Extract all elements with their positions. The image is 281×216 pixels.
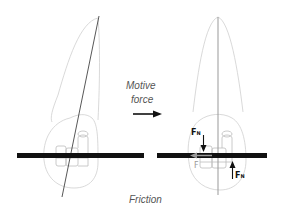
normal-force-top-subscript: N	[196, 130, 200, 136]
normal-force-bottom-subscript: N	[240, 173, 244, 179]
right-bracket	[200, 131, 232, 168]
normal-force-down-arrow	[201, 135, 207, 152]
motive-force-label-line2: force	[131, 94, 153, 105]
orthodontic-diagram	[0, 0, 281, 216]
left-crown-outline	[44, 115, 98, 188]
normal-force-top-label: FN	[191, 129, 201, 137]
left-archwire	[17, 153, 144, 158]
left-tooth-outline	[51, 18, 99, 122]
friction-force-label: F	[194, 162, 199, 170]
left-tooth	[44, 16, 100, 197]
motive-force-arrow	[133, 111, 162, 118]
left-tooth-axis	[62, 16, 99, 197]
motive-force-label-line1: Motive	[126, 80, 155, 91]
friction-label: Friction	[129, 194, 162, 205]
normal-force-bottom-label: FN	[235, 172, 245, 180]
